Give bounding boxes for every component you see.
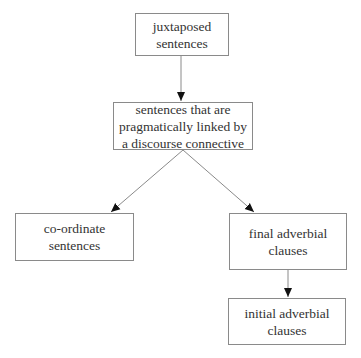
node-pragmatically-linked-sentences: sentences that are pragmatically linked … xyxy=(113,102,253,150)
node-coordinate-sentences: co-ordinate sentences xyxy=(15,213,134,261)
node-label: juxtaposed sentences xyxy=(153,18,212,52)
node-label: co-ordinate sentences xyxy=(44,220,105,254)
node-label: final adverbial clauses xyxy=(249,225,327,259)
node-label: initial adverbial clauses xyxy=(244,305,329,339)
node-juxtaposed-sentences: juxtaposed sentences xyxy=(135,13,229,56)
node-initial-adverbial-clauses: initial adverbial clauses xyxy=(228,298,346,345)
edge-pragmatic-to-final xyxy=(183,150,254,212)
diagram-canvas: juxtaposed sentences sentences that are … xyxy=(0,0,361,358)
edge-pragmatic-to-coordinate xyxy=(111,150,183,212)
node-final-adverbial-clauses: final adverbial clauses xyxy=(229,213,347,270)
node-label: sentences that are pragmatically linked … xyxy=(119,101,247,152)
